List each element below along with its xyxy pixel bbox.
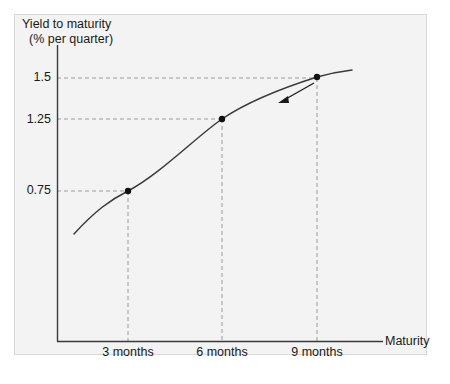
yield-curve (74, 70, 352, 234)
data-point-6-months (219, 116, 225, 122)
axes-group (57, 45, 383, 342)
figure-root: Yield to maturity (% per quarter) 1.5 1.… (0, 0, 450, 384)
annotation-arrow-shaft (284, 83, 314, 100)
chart-plot-area (0, 0, 450, 384)
annotation-arrow-head (278, 96, 289, 103)
data-point-9-months (314, 74, 320, 80)
annotation-arrow (278, 83, 314, 103)
guide-lines-group (57, 78, 317, 341)
data-point-3-months (125, 188, 131, 194)
